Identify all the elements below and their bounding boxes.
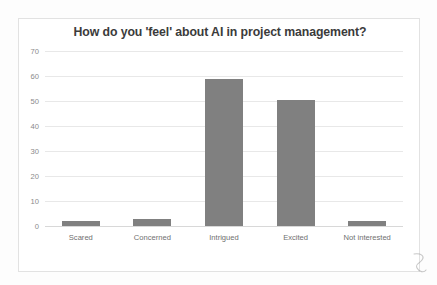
x-axis-category-label: Excited [283,233,308,242]
y-axis-tick-label: 20 [31,172,39,181]
bar-column[interactable]: Not interested [331,51,403,226]
x-axis-category-label: Scared [69,233,93,242]
x-axis-category-label: Concerned [134,233,171,242]
y-axis-tick-label: 40 [31,122,39,131]
chart-title: How do you 'feel' about AI in project ma… [19,25,421,39]
x-axis-category-label: Intrigued [209,233,239,242]
y-axis-tick-label: 60 [31,72,39,81]
bar[interactable] [205,79,243,227]
plot-area: 010203040506070 ScaredConcernedIntrigued… [45,51,403,226]
bar-column[interactable]: Concerned [117,51,189,226]
y-axis-tick-label: 50 [31,97,39,106]
bar-column[interactable]: Excited [260,51,332,226]
bar-column[interactable]: Intrigued [188,51,260,226]
gridline [45,226,403,227]
chart-card: How do you 'feel' about AI in project ma… [18,18,420,272]
bar[interactable] [348,221,386,226]
bar[interactable] [133,219,171,227]
bar-column[interactable]: Scared [45,51,117,226]
y-axis-tick-label: 70 [31,47,39,56]
y-axis-tick-label: 10 [31,197,39,206]
bar[interactable] [277,100,315,226]
x-axis-category-label: Not interested [344,233,391,242]
bar-series: ScaredConcernedIntriguedExcitedNot inter… [45,51,403,226]
y-axis-tick-label: 30 [31,147,39,156]
y-axis-tick-label: 0 [35,222,39,231]
bar[interactable] [62,221,100,226]
